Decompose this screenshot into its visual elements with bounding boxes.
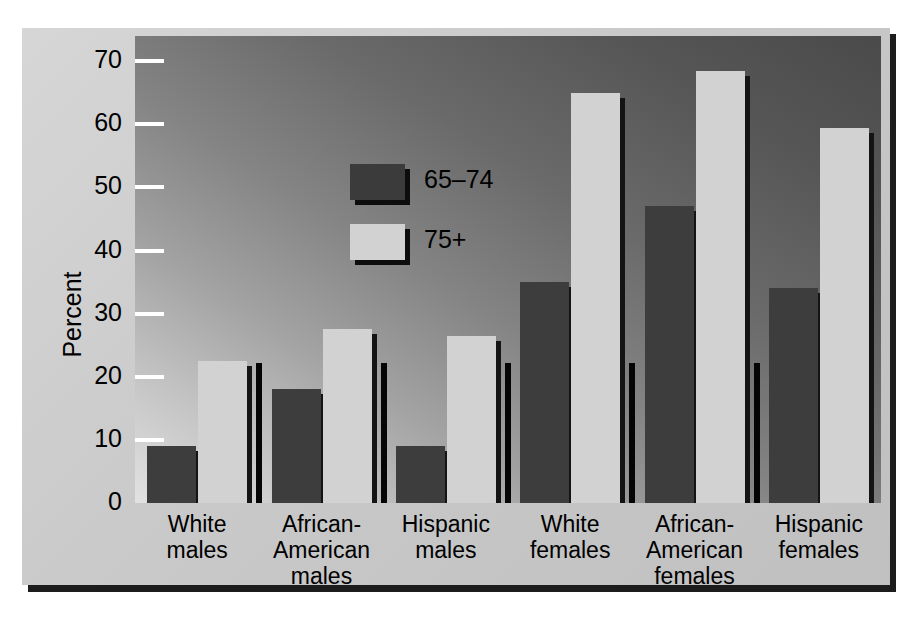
legend-swatch-shadow	[355, 200, 410, 205]
bar-6574-group-4	[645, 206, 694, 503]
panel-drop-shadow-bottom	[28, 585, 896, 592]
x-category-label-line: females	[749, 537, 889, 563]
group-separator-0	[256, 363, 262, 503]
x-category-label-line: American	[625, 537, 765, 563]
bar-shadow-right	[745, 76, 750, 503]
x-category-label-line: American	[252, 537, 392, 563]
x-category-label-2: Hispanicmales	[376, 511, 516, 563]
y-tick-label-60: 60	[94, 110, 122, 135]
bar-shadow-right	[247, 366, 252, 503]
y-tick-label-40: 40	[94, 237, 122, 262]
legend-swatch-65-74	[350, 164, 405, 200]
x-category-label-5: Hispanicfemales	[749, 511, 889, 563]
y-tick-10	[135, 438, 164, 442]
bar-6574-group-2	[396, 446, 445, 503]
bar-shadow-right	[496, 341, 501, 503]
y-tick-label-30: 30	[94, 300, 122, 325]
y-tick-label-20: 20	[94, 363, 122, 388]
y-tick-label-70: 70	[94, 47, 122, 72]
y-tick-label-10: 10	[94, 426, 122, 451]
bar-shadow-right	[372, 334, 377, 503]
x-category-label-1: African-Americanmales	[252, 511, 392, 589]
chart-figure: 010203040506070 Percent 65–74 75+ Whitem…	[0, 0, 914, 631]
y-tick-70	[135, 59, 164, 63]
group-separator-2	[505, 363, 511, 503]
legend-swatch-75-plus	[350, 224, 405, 260]
x-category-label-line: males	[376, 537, 516, 563]
bar-6574-group-3	[520, 282, 569, 503]
x-category-label-0: Whitemales	[127, 511, 267, 563]
plot-area: 65–74 75+	[135, 36, 881, 503]
legend-swatch-shadow-right	[405, 169, 410, 205]
bar-6574-group-5	[769, 288, 818, 503]
bar-shadow-right	[869, 133, 874, 503]
bar-shadow-right	[620, 98, 625, 503]
x-category-label-3: Whitefemales	[500, 511, 640, 563]
bar-75-group-4	[696, 71, 745, 503]
legend-swatch-shadow	[355, 260, 410, 265]
x-category-label-line: males	[127, 537, 267, 563]
x-category-label-line: Hispanic	[376, 511, 516, 537]
y-tick-60	[135, 122, 164, 126]
panel-drop-shadow-right	[890, 34, 896, 592]
bar-6574-group-1	[272, 389, 321, 503]
x-category-label-line: females	[625, 563, 765, 589]
legend-label-75-plus: 75+	[424, 225, 466, 254]
group-separator-4	[754, 363, 760, 503]
y-tick-label-0: 0	[108, 489, 122, 514]
group-separator-1	[381, 363, 387, 503]
bar-75-group-3	[571, 93, 620, 503]
y-tick-30	[135, 312, 164, 316]
legend-swatch-shadow-right	[405, 229, 410, 265]
x-category-label-4: African-Americanfemales	[625, 511, 765, 589]
x-category-label-line: White	[127, 511, 267, 537]
x-category-label-line: Hispanic	[749, 511, 889, 537]
x-category-label-line: males	[252, 563, 392, 589]
bar-75-group-5	[820, 128, 869, 503]
y-tick-label-50: 50	[94, 173, 122, 198]
x-category-label-line: White	[500, 511, 640, 537]
x-category-label-line: African-	[625, 511, 765, 537]
y-axis-title: Percent	[58, 235, 87, 395]
y-tick-20	[135, 375, 164, 379]
bar-75-group-1	[323, 329, 372, 503]
bar-75-group-0	[198, 361, 247, 503]
bar-6574-group-0	[147, 446, 196, 503]
y-tick-40	[135, 249, 164, 253]
y-tick-50	[135, 185, 164, 189]
x-category-label-line: females	[500, 537, 640, 563]
group-separator-3	[629, 363, 635, 503]
x-category-label-line: African-	[252, 511, 392, 537]
legend-label-65-74: 65–74	[424, 165, 494, 194]
bar-75-group-2	[447, 336, 496, 503]
